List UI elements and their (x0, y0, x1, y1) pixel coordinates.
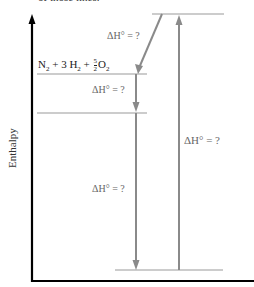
y-axis-label: Enthalpy (6, 128, 18, 168)
delta-h-low-label: ΔH° = ? (92, 183, 125, 194)
delta-h-overall-label: ΔH° = ? (184, 134, 220, 146)
formula-n: N (38, 58, 46, 70)
fraction: 52 (94, 58, 98, 73)
reactants-formula: N2 + 3 H2 + 52O2 (38, 58, 110, 73)
formula-o: O (98, 58, 106, 70)
fraction-denominator: 2 (94, 66, 98, 73)
formula-sub: 2 (106, 65, 110, 73)
y-axis-arrow-icon (29, 14, 36, 24)
delta-h-top-label: ΔH° = ? (107, 30, 140, 41)
y-axis (29, 14, 36, 282)
arrow-diagonal (139, 14, 162, 68)
delta-h-mid-label: ΔH° = ? (92, 84, 125, 95)
formula-h: + 3 H (49, 58, 77, 70)
formula-plus: + (81, 58, 93, 70)
